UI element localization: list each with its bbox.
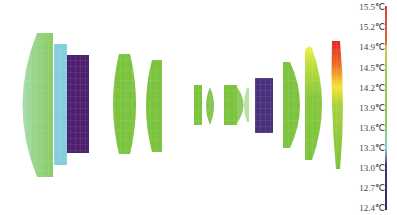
element-4 — [194, 85, 202, 125]
lens-2 — [113, 54, 136, 154]
colorbar-tick-label: 12.4℃ — [341, 203, 385, 213]
lens-9 — [305, 46, 322, 160]
colorbar-tick-label: 15.5℃ — [341, 2, 385, 12]
colorbar-tick-label: 13.9℃ — [341, 103, 385, 113]
colorbar-tick-label: 13.0℃ — [341, 163, 385, 173]
colorbar-tick-label: 14.9℃ — [341, 42, 385, 52]
colorbar-tick-label: 14.5℃ — [341, 63, 385, 73]
element-6 — [224, 85, 237, 125]
colorbar-tick-label: 14.2℃ — [341, 83, 385, 93]
colorbar-tick-label: 12.7℃ — [341, 183, 385, 193]
block-1 — [67, 55, 89, 153]
colorbar-tick-label: 13.6℃ — [341, 123, 385, 133]
block-2 — [255, 78, 273, 133]
colorbar-tick-label: 15.2℃ — [341, 22, 385, 32]
colorbar — [385, 6, 387, 210]
lens-7 — [237, 87, 249, 123]
lens-3 — [146, 60, 162, 152]
lens-8 — [283, 62, 300, 148]
lens-5 — [206, 87, 214, 125]
colorbar-tick-label: 13.3℃ — [341, 143, 385, 153]
lens-1 — [23, 33, 54, 177]
plate-1 — [54, 44, 67, 165]
thermal-lens-chart — [0, 0, 397, 215]
